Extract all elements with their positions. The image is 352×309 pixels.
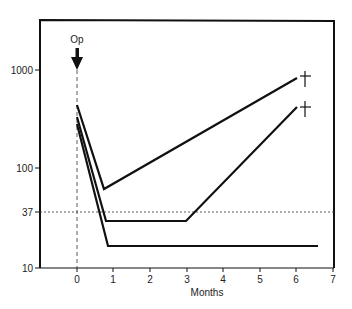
y-tick-10: 10 — [22, 263, 34, 274]
series-line-2 — [77, 107, 297, 221]
series-line-1 — [77, 78, 297, 189]
x-tick-1: 1 — [110, 274, 116, 285]
x-tick-2: 2 — [147, 274, 153, 285]
x-tick-3: 3 — [184, 274, 190, 285]
y-tick-37: 37 — [22, 207, 34, 218]
x-tick-7: 7 — [330, 274, 336, 285]
y-tick-100: 100 — [16, 163, 33, 174]
op-label: Op — [70, 34, 84, 45]
chart: 1000 100 37 10 0 1 2 3 4 5 6 7 Months Op — [0, 0, 352, 309]
x-axis-label: Months — [191, 287, 224, 298]
op-arrow-icon — [71, 48, 83, 70]
y-tick-1000: 1000 — [11, 65, 34, 76]
x-tick-5: 5 — [257, 274, 263, 285]
x-tick-0: 0 — [74, 274, 80, 285]
dagger-icon — [300, 71, 311, 87]
x-tick-4: 4 — [220, 274, 226, 285]
dagger-icon — [300, 101, 311, 117]
x-tick-6: 6 — [293, 274, 299, 285]
